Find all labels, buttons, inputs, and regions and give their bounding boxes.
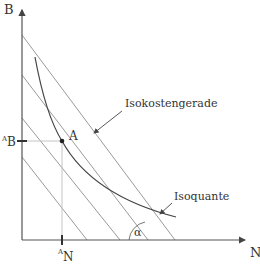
isoquant-arrow [160, 203, 172, 214]
y-axis-label: B [4, 2, 14, 17]
isocost-line-1 [22, 157, 87, 240]
isocost-label: Isokostengerade [125, 97, 217, 110]
point-a-label: A [68, 129, 78, 143]
guide-lines [22, 141, 62, 240]
x-axis-label: N [250, 245, 260, 260]
isocost-arrow [94, 111, 122, 133]
isoquant-isocost-diagram: B N A B A N A Isokostengerade Isoquante … [0, 0, 260, 265]
point-a [60, 139, 65, 144]
isoquant-label: Isoquante [174, 190, 229, 203]
y-tick-label: B [7, 135, 16, 149]
x-tick-label: N [63, 250, 74, 264]
angle-label: α [134, 226, 142, 239]
